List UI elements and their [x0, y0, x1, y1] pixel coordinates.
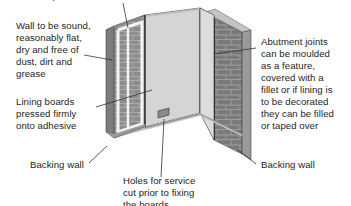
label-wall-condition: Wall to be sound, reasonably flat, dry a… [16, 20, 91, 80]
label-lining-boards: Lining boards pressed firmly onto adhesi… [16, 96, 76, 132]
label-service-holes: Holes for service cut prior to fixing th… [123, 175, 195, 206]
label-top-cutoff: Strips of wall adhesive [38, 0, 135, 2]
label-backing-wall-right: Backing wall [261, 159, 315, 171]
left-backing-wall [106, 15, 145, 138]
label-abutment-joints: Abutment joints can be moulded as a feat… [261, 36, 334, 132]
label-backing-wall-left: Backing wall [30, 159, 84, 171]
